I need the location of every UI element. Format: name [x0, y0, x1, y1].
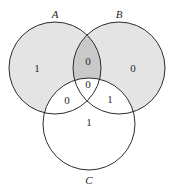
- region-a-only-value: 1: [34, 62, 40, 74]
- set-label-b: B: [116, 8, 123, 20]
- region-abc-value: 0: [85, 78, 91, 90]
- region-b-only-value: 0: [130, 62, 136, 74]
- region-ab-only-value: 0: [85, 55, 91, 67]
- region-ac-only-value: 0: [64, 94, 70, 106]
- set-label-a: A: [51, 8, 59, 20]
- region-bc-only-value: 1: [107, 93, 113, 105]
- venn-diagram: A B C 1 0 1 0 0 1 0: [0, 0, 174, 193]
- set-label-c: C: [85, 174, 93, 186]
- region-c-only-value: 1: [86, 116, 92, 128]
